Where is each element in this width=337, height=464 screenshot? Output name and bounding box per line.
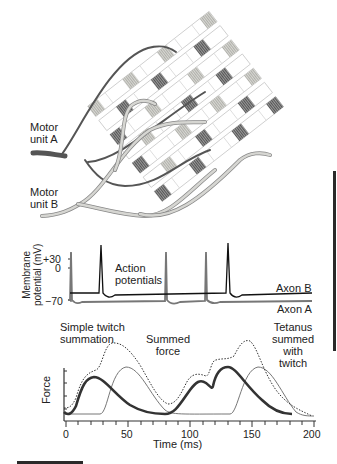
force-xlabel: Time (ms) xyxy=(153,438,202,450)
membrane-ylabel: Membrane potential (mV) xyxy=(21,244,43,306)
simple-twitch-line2: summation xyxy=(60,333,125,345)
membrane-potential-chart xyxy=(68,243,312,304)
summed-force-annotation: Summed force xyxy=(146,333,190,357)
xtick-200: 200 xyxy=(303,428,321,440)
simple-twitch-line1: Simple twitch xyxy=(60,321,125,333)
membrane-ylabel-line1: Membrane xyxy=(21,244,32,306)
motor-unit-a-label: Motor unit A xyxy=(30,121,58,145)
tetanus-line3: with twitch xyxy=(268,345,318,369)
force-ylabel: Force xyxy=(40,376,52,404)
axon-a-trace xyxy=(68,252,312,304)
simple-twitch-annotation: Simple twitch summation xyxy=(60,321,125,345)
membrane-ylabel-line2: potential (mV) xyxy=(32,244,43,306)
xtick-50: 50 xyxy=(121,428,133,440)
action-potentials-annotation: Action potentials xyxy=(115,262,162,286)
motor-unit-b-label-line1: Motor xyxy=(30,186,58,198)
xtick-150: 150 xyxy=(243,428,261,440)
motor-unit-a-label-line2: unit A xyxy=(30,133,58,145)
motor-unit-b-label-line2: unit B xyxy=(30,198,58,210)
motor-unit-b-label: Motor unit B xyxy=(30,186,58,210)
tetanus-line1: Tetanus xyxy=(268,321,318,333)
annotation-line2: potentials xyxy=(115,274,162,286)
summed-force-line2: force xyxy=(146,345,190,357)
right-divider-bar xyxy=(333,171,336,351)
ytick-0: 0 xyxy=(55,262,61,274)
axon-a-legend: Axon A xyxy=(277,303,312,315)
ytick-minus70: −70 xyxy=(45,295,63,307)
annotation-line1: Action xyxy=(115,262,162,274)
tetanus-annotation: Tetanus summed with twitch xyxy=(268,321,318,369)
summed-force-line1: Summed xyxy=(146,333,190,345)
axon-b-legend: Axon B xyxy=(276,282,311,294)
motor-unit-a-label-line1: Motor xyxy=(30,121,58,133)
unit-a-twitch-curve xyxy=(64,367,292,414)
tetanus-line2: summed xyxy=(268,333,318,345)
xtick-0: 0 xyxy=(63,428,69,440)
